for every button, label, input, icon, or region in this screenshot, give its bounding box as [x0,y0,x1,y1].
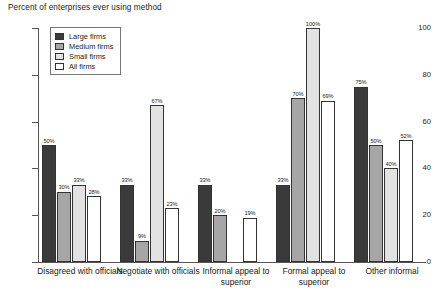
bar[interactable] [57,192,71,262]
bar-group: 33%20%19% [198,28,274,262]
bar-slot: 33% [276,28,290,262]
bar-slot: 52% [399,28,413,262]
y-tick [32,262,38,263]
bar[interactable] [150,105,164,262]
legend-swatch-all [55,63,64,70]
bar-value-label: 100% [306,21,320,27]
bar[interactable] [243,218,257,262]
bar-slot: 40% [384,28,398,262]
legend-swatch-small [55,53,64,60]
legend-label: Small firms [69,52,106,61]
legend-swatch-medium [55,43,64,50]
bar[interactable] [213,215,227,262]
bar[interactable] [354,87,368,263]
legend-item[interactable]: Small firms [55,51,113,61]
bar-value-label: 33% [73,177,84,183]
bar-group: 33%9%67%23% [120,28,196,262]
bar-slot: 50% [369,28,383,262]
legend-item[interactable]: Large firms [55,31,113,41]
legend-item[interactable]: All firms [55,61,113,71]
bar[interactable] [399,140,413,262]
bar[interactable] [321,101,335,262]
legend-label: Medium firms [69,42,113,51]
bar-slot: 67% [150,28,164,262]
bar-value-label: 33% [199,177,210,183]
bar[interactable] [87,196,101,262]
bar-slot: 70% [291,28,305,262]
bar-slot [228,28,242,262]
bar-value-label: 69% [322,93,333,99]
bar-slot: 23% [165,28,179,262]
bar-slot: 9% [135,28,149,262]
bar-slot: 75% [354,28,368,262]
bar[interactable] [165,208,179,262]
bar-value-label: 30% [58,184,69,190]
bar[interactable] [306,28,320,262]
category-label: Other informal [346,266,436,277]
bar-slot: 33% [120,28,134,262]
bar-slot: 100% [306,28,320,262]
bar[interactable] [291,98,305,262]
bar[interactable] [120,185,134,262]
x-axis-line [37,262,426,263]
bar[interactable] [369,145,383,262]
legend-label: All firms [69,62,95,71]
legend-item[interactable]: Medium firms [55,41,113,51]
bar-slot: 19% [243,28,257,262]
bar-value-label: 50% [43,138,54,144]
bar[interactable] [72,185,86,262]
bar-value-label: 19% [244,210,255,216]
bar-value-label: 20% [214,208,225,214]
bar-value-label: 9% [138,233,146,239]
legend-label: Large firms [69,32,106,41]
bar-slot: 20% [213,28,227,262]
bar-value-label: 50% [370,138,381,144]
bar-value-label: 67% [151,98,162,104]
bar-slot: 33% [198,28,212,262]
bar-group: 75%50%40%52% [354,28,430,262]
bar-value-label: 33% [277,177,288,183]
chart-title: Percent of enterprises ever using method [8,3,162,12]
bar-value-label: 75% [355,79,366,85]
bar-value-label: 40% [385,161,396,167]
bar[interactable] [42,145,56,262]
bar-value-label: 28% [88,189,99,195]
bar-group: 33%70%100%69% [276,28,352,262]
bar[interactable] [276,185,290,262]
bar[interactable] [198,185,212,262]
bar-value-label: 52% [400,133,411,139]
bar-value-label: 70% [292,91,303,97]
bar-value-label: 23% [166,201,177,207]
legend: Large firmsMedium firmsSmall firmsAll fi… [50,27,121,75]
bar[interactable] [135,241,149,262]
bar-slot: 69% [321,28,335,262]
bar-value-label: 33% [121,177,132,183]
legend-swatch-large [55,33,64,40]
bar[interactable] [384,168,398,262]
